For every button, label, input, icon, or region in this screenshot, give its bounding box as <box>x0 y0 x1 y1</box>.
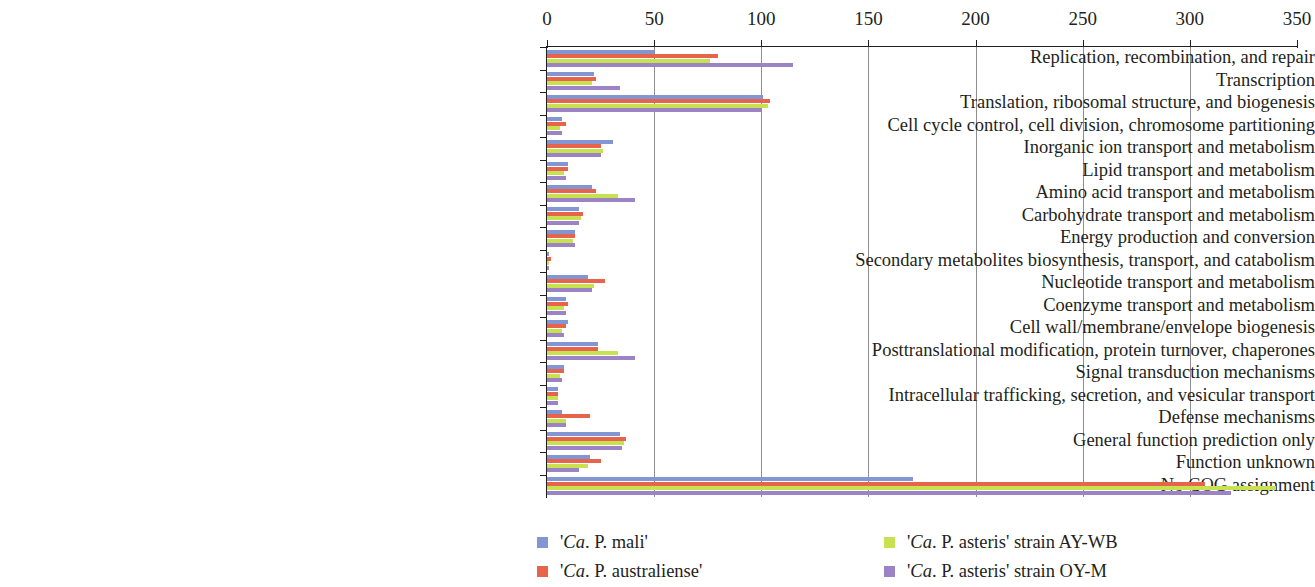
bar-group <box>0 115 750 138</box>
bar <box>547 320 568 324</box>
bar <box>547 221 579 225</box>
bar <box>547 167 568 171</box>
bar <box>547 171 564 175</box>
bar-group <box>0 362 750 385</box>
bar <box>547 482 1205 486</box>
bar <box>547 410 562 414</box>
chart-legend: 'Ca. P. mali''Ca. P. australiense''Ca. P… <box>0 528 1315 587</box>
bar <box>547 432 620 436</box>
bar <box>547 365 564 369</box>
bar <box>547 351 618 355</box>
bar <box>547 239 573 243</box>
category-label: Posttranslational modification, protein … <box>772 341 1315 360</box>
bar-group <box>0 385 750 408</box>
bar <box>547 144 601 148</box>
bar <box>547 230 575 234</box>
bar <box>547 252 549 256</box>
bar <box>547 189 596 193</box>
bar <box>547 216 581 220</box>
bar-group <box>0 92 750 115</box>
bar <box>547 333 564 337</box>
bar-group <box>0 340 750 363</box>
bar <box>547 347 598 351</box>
bar <box>547 153 601 157</box>
bar <box>547 185 592 189</box>
category-label: Carbohydrate transport and metabolism <box>772 206 1315 225</box>
bar <box>547 207 579 211</box>
bar-group <box>0 272 750 295</box>
bar-group <box>0 295 750 318</box>
bar <box>547 279 605 283</box>
bar-group <box>0 160 750 183</box>
legend-item[interactable]: 'Ca. P. mali' <box>537 532 648 553</box>
legend-item[interactable]: 'Ca. P. australiense' <box>537 561 702 582</box>
bar-group <box>0 317 750 340</box>
category-label: Secondary metabolites biosynthesis, tran… <box>772 251 1315 270</box>
bar <box>547 63 793 67</box>
bar <box>547 104 768 108</box>
category-label: General function prediction only <box>772 431 1315 450</box>
x-tick-label: 150 <box>854 8 883 30</box>
x-tick-label: 250 <box>1068 8 1097 30</box>
bar <box>547 99 770 103</box>
bar <box>547 257 551 261</box>
x-tick-label: 200 <box>961 8 990 30</box>
x-tick-label: 50 <box>645 8 664 30</box>
legend-label: 'Ca. P. asteris' strain AY-WB <box>907 532 1118 553</box>
bar <box>547 486 1276 490</box>
bar <box>547 437 626 441</box>
bar <box>547 401 558 405</box>
bar <box>547 266 549 270</box>
bar <box>547 126 560 130</box>
x-tick-label: 350 <box>1283 8 1312 30</box>
bar <box>547 81 592 85</box>
x-tick-label: 100 <box>747 8 776 30</box>
legend-color-swatch <box>884 566 895 577</box>
x-tick-label: 0 <box>542 8 552 30</box>
bar <box>547 243 575 247</box>
bar <box>547 392 558 396</box>
category-label: Cell cycle control, cell division, chrom… <box>772 116 1315 135</box>
bar-group <box>0 227 750 250</box>
bar <box>547 329 562 333</box>
category-label: Energy production and conversion <box>772 228 1315 247</box>
x-tick-label: 300 <box>1176 8 1205 30</box>
bar <box>547 302 568 306</box>
bar-group <box>0 452 750 475</box>
bar <box>547 77 596 81</box>
bar <box>547 54 718 58</box>
bar <box>547 149 603 153</box>
category-label: Amino acid transport and metabolism <box>772 183 1315 202</box>
bar <box>547 122 566 126</box>
bar <box>547 455 590 459</box>
chart-figure: 050100150200250300350 Replication, recom… <box>0 0 1315 587</box>
bar <box>547 234 575 238</box>
bar <box>547 140 613 144</box>
legend-label: 'Ca. P. australiense' <box>560 561 702 582</box>
bar <box>547 414 590 418</box>
gridline <box>761 47 762 497</box>
bar <box>547 275 588 279</box>
category-label: Defense mechanisms <box>772 408 1315 427</box>
category-label: Replication, recombination, and repair <box>772 48 1315 67</box>
bar <box>547 198 635 202</box>
bar <box>547 369 564 373</box>
bar <box>547 423 566 427</box>
category-label: Intracellular trafficking, secretion, an… <box>772 386 1315 405</box>
legend-label-genus: Ca <box>910 561 932 581</box>
bar <box>547 356 635 360</box>
bar <box>547 72 594 76</box>
legend-item[interactable]: 'Ca. P. asteris' strain OY-M <box>884 561 1107 582</box>
bar <box>547 288 592 292</box>
legend-item[interactable]: 'Ca. P. asteris' strain AY-WB <box>884 532 1118 553</box>
legend-label-genus: Ca <box>910 532 932 552</box>
bar <box>547 117 562 121</box>
legend-color-swatch <box>537 566 548 577</box>
bar <box>547 176 566 180</box>
legend-label: 'Ca. P. mali' <box>560 532 648 553</box>
bar <box>547 50 654 54</box>
bar <box>547 441 624 445</box>
bar <box>547 86 620 90</box>
bar <box>547 59 710 63</box>
legend-label-genus: Ca <box>563 532 585 552</box>
